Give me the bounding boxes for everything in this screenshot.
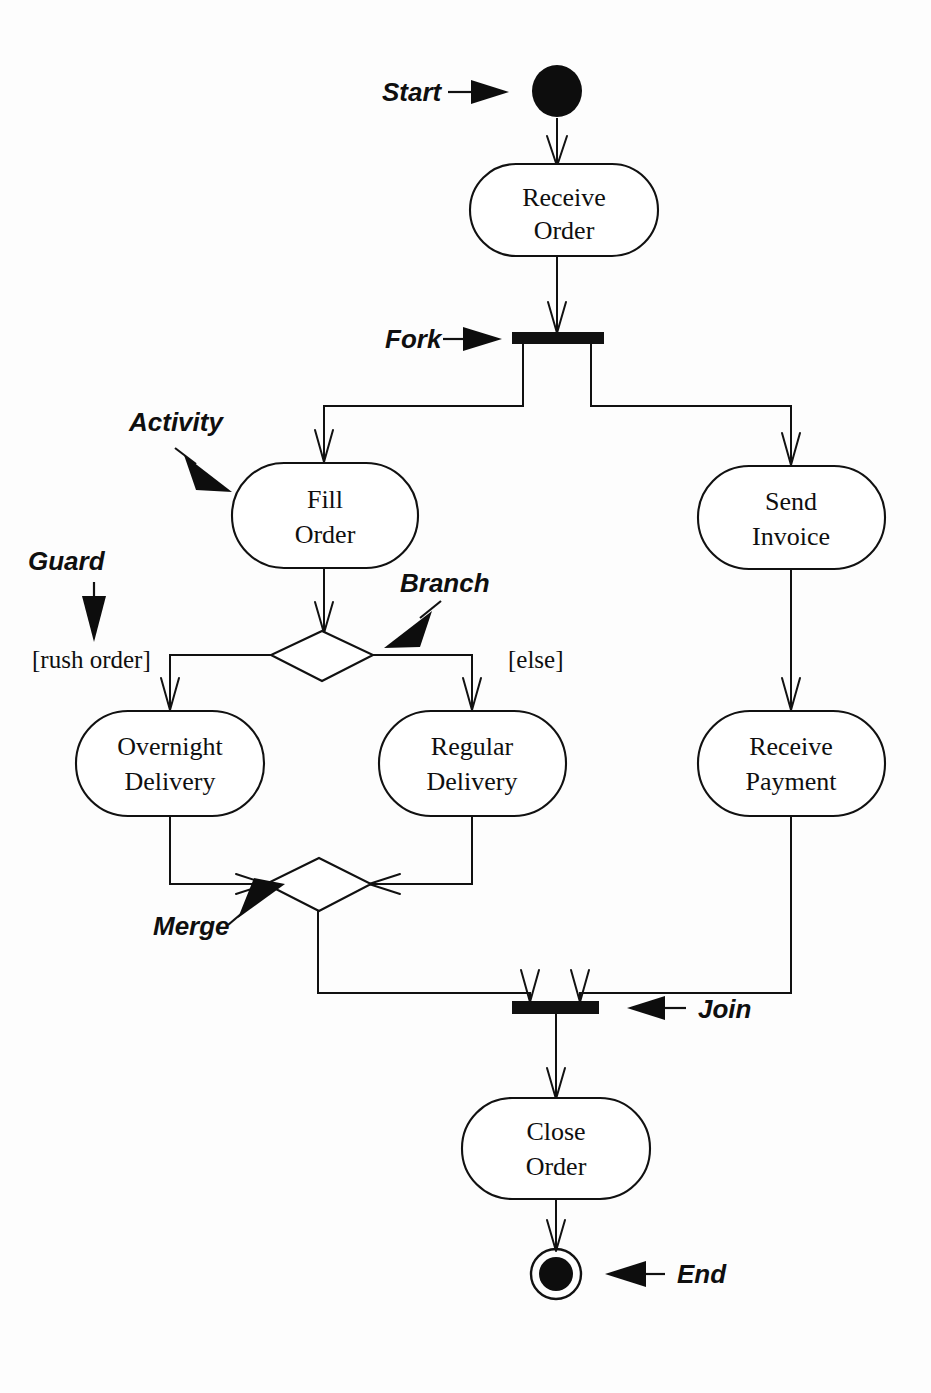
node-overnight-delivery-label-1: Overnight	[117, 732, 223, 761]
node-receive-order-label-1: Receive	[522, 183, 606, 212]
node-branch-diamond[interactable]	[271, 631, 373, 681]
edge-receive-order-to-fork	[548, 255, 566, 333]
activity-diagram-svg: Receive Order Fill Order Send Invoice Ov…	[0, 0, 931, 1393]
node-receive-payment[interactable]: Receive Payment	[698, 711, 885, 816]
guard-label-else: [else]	[508, 646, 564, 673]
edge-receive-payment-to-join	[571, 815, 791, 1002]
node-receive-payment-label-2: Payment	[746, 767, 838, 796]
edge-merge-to-join	[318, 910, 539, 1002]
annotation-start-label: Start	[382, 77, 443, 107]
diagram-canvas: Receive Order Fill Order Send Invoice Ov…	[0, 0, 931, 1393]
annotation-join: Join	[627, 994, 751, 1024]
edge-fork-to-send-invoice	[591, 344, 800, 465]
annotation-join-label: Join	[698, 994, 751, 1024]
node-receive-payment-label-1: Receive	[749, 732, 833, 761]
node-end[interactable]	[531, 1249, 581, 1299]
annotation-activity: Activity	[128, 407, 232, 492]
guard-label-rush-order: [rush order]	[32, 646, 151, 673]
annotation-start: Start	[382, 77, 509, 107]
node-send-invoice-label-1: Send	[765, 487, 817, 516]
edge-fork-to-fill-order	[315, 344, 523, 462]
node-close-order-label-2: Order	[526, 1152, 587, 1181]
node-send-invoice-label-2: Invoice	[752, 522, 830, 551]
edge-join-to-close-order	[547, 1014, 565, 1099]
annotation-guard-label: Guard	[28, 546, 106, 576]
annotation-merge: Merge	[153, 878, 285, 941]
node-regular-delivery[interactable]: Regular Delivery	[379, 711, 566, 816]
annotation-end: End	[605, 1259, 727, 1289]
edge-close-order-to-end	[547, 1198, 565, 1251]
edge-branch-to-regular-delivery	[372, 655, 481, 710]
annotation-end-label: End	[677, 1259, 727, 1289]
node-close-order[interactable]: Close Order	[462, 1098, 650, 1199]
edge-regular-delivery-to-merge	[369, 815, 472, 894]
annotation-guard: Guard	[28, 546, 106, 642]
node-receive-order[interactable]: Receive Order	[470, 164, 658, 256]
node-overnight-delivery-label-2: Delivery	[125, 767, 216, 796]
annotation-fork: Fork	[385, 324, 502, 354]
node-overnight-delivery[interactable]: Overnight Delivery	[76, 711, 264, 816]
annotation-fork-label: Fork	[385, 324, 443, 354]
node-join-bar[interactable]	[512, 1001, 599, 1014]
node-regular-delivery-label-1: Regular	[431, 732, 514, 761]
annotation-merge-label: Merge	[153, 911, 230, 941]
node-receive-order-label-2: Order	[534, 216, 595, 245]
annotation-branch: Branch	[384, 568, 490, 648]
node-regular-delivery-label-2: Delivery	[427, 767, 518, 796]
edge-branch-to-overnight-delivery	[161, 655, 272, 710]
annotation-branch-label: Branch	[400, 568, 490, 598]
node-fill-order-label-2: Order	[295, 520, 356, 549]
node-close-order-label-1: Close	[526, 1117, 585, 1146]
edge-start-to-receive-order	[547, 118, 567, 166]
node-send-invoice[interactable]: Send Invoice	[698, 466, 885, 569]
node-start[interactable]	[532, 65, 582, 117]
node-fill-order[interactable]: Fill Order	[232, 463, 418, 568]
edge-fill-order-to-branch	[315, 568, 333, 633]
node-fork-bar[interactable]	[512, 332, 604, 344]
annotation-activity-label: Activity	[128, 407, 224, 437]
edge-send-invoice-to-receive-payment	[782, 568, 800, 710]
node-fill-order-label-1: Fill	[307, 485, 343, 514]
